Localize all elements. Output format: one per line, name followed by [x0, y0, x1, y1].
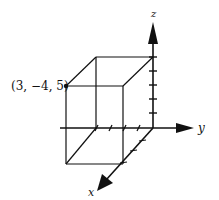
edge-top-left-diag	[66, 57, 96, 86]
box-edges	[66, 57, 153, 164]
y-axis-label: y	[197, 121, 205, 135]
x-axis	[106, 128, 153, 180]
point-label: (3, −4, 5)	[11, 79, 69, 93]
edge-bottom-left-diag	[66, 128, 96, 164]
diagram-canvas: (3, −4, 5) z y x	[0, 0, 219, 200]
z-arrow-icon	[148, 22, 158, 44]
axes	[60, 40, 180, 180]
x-axis-label: x	[88, 186, 95, 199]
x-arrow-icon	[97, 174, 113, 191]
edge-top-right-diag	[123, 57, 153, 86]
y-arrow-icon	[176, 123, 194, 133]
z-axis-label: z	[150, 8, 157, 19]
